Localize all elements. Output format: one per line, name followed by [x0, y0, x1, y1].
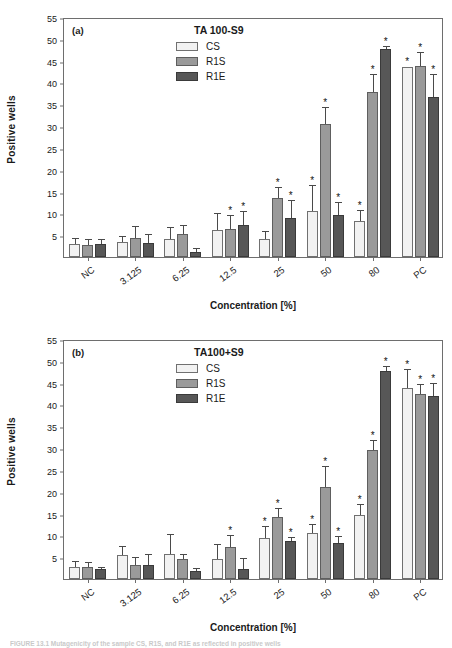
error-bar — [170, 228, 171, 239]
y-tick-label: 55 — [47, 15, 60, 24]
error-bar — [325, 108, 326, 124]
y-tick-label: 10 — [47, 533, 60, 542]
error-bar — [135, 558, 136, 565]
x-tick-mark — [88, 257, 89, 261]
bar-cs — [402, 67, 413, 257]
bar-r1s — [130, 565, 141, 579]
x-tick-mark — [88, 579, 89, 583]
x-tick-label: 80 — [338, 264, 382, 300]
bar-r1s — [415, 394, 426, 579]
y-tick: 25 — [30, 145, 64, 154]
y-tick: 40 — [30, 402, 64, 411]
error-bar — [243, 212, 244, 226]
y-tick-label: 5 — [52, 233, 60, 242]
error-bar — [101, 568, 102, 570]
error-bar-cap — [132, 226, 139, 227]
bars-b: ************* — [64, 341, 442, 579]
x-axis-title-b: Concentration [%] — [63, 622, 443, 633]
significance-marker: * — [384, 37, 388, 47]
error-bar — [433, 75, 434, 97]
error-bar — [265, 232, 266, 239]
significance-marker: * — [289, 528, 293, 538]
y-tick-label: 45 — [47, 58, 60, 67]
y-tick: 50 — [30, 36, 64, 45]
y-tick: 20 — [30, 167, 64, 176]
bar-r1s — [82, 245, 93, 257]
y-tick-mark — [60, 384, 64, 385]
x-tick-label: 3.125 — [100, 586, 144, 622]
y-tick-label: 30 — [47, 124, 60, 133]
error-bar — [312, 525, 313, 533]
error-bar — [291, 201, 292, 218]
error-bar-cap — [145, 554, 152, 555]
error-bar-cap — [72, 238, 79, 239]
y-tick: 45 — [30, 380, 64, 389]
significance-marker: * — [241, 202, 245, 212]
y-tick: 5 — [30, 233, 64, 242]
y-tick-mark — [60, 362, 64, 363]
x-tick-label: NC — [53, 586, 97, 622]
significance-marker: * — [276, 499, 280, 509]
y-tick: 30 — [30, 124, 64, 133]
y-tick-label: 50 — [47, 36, 60, 45]
significance-marker: * — [228, 526, 232, 536]
y-tick-mark — [60, 515, 64, 516]
y-tick-label: 10 — [47, 211, 60, 220]
error-bar — [196, 249, 197, 252]
x-tick-mark — [325, 257, 326, 261]
bar-r1s — [225, 229, 236, 257]
y-tick-label: 50 — [47, 358, 60, 367]
x-tick-mark — [278, 257, 279, 261]
error-bar — [148, 555, 149, 565]
error-bar — [230, 536, 231, 547]
significance-marker: * — [276, 178, 280, 188]
bar-r1e — [238, 569, 249, 579]
error-bar-cap — [193, 248, 200, 249]
error-bar — [360, 211, 361, 221]
error-bar — [122, 547, 123, 555]
y-tick-label: 45 — [47, 380, 60, 389]
y-tick: 55 — [30, 15, 64, 24]
x-tick-mark — [373, 257, 374, 261]
significance-marker: * — [358, 201, 362, 211]
error-bar-cap — [72, 561, 79, 562]
significance-marker: * — [384, 357, 388, 367]
error-bar — [122, 237, 123, 242]
error-bar — [407, 370, 408, 387]
bar-cs — [259, 538, 270, 579]
bar-cs — [69, 567, 80, 579]
y-tick-mark — [60, 84, 64, 85]
y-tick: 10 — [30, 533, 64, 542]
error-bar-cap — [180, 225, 187, 226]
bar-r1e — [95, 569, 106, 579]
error-bar — [88, 563, 89, 567]
x-tick-mark — [230, 579, 231, 583]
error-bar — [75, 562, 76, 566]
significance-marker: * — [418, 43, 422, 53]
x-tick-mark — [325, 579, 326, 583]
y-tick-label: 30 — [47, 446, 60, 455]
x-tick-label: 12.5 — [195, 264, 239, 300]
x-tick-mark — [135, 579, 136, 583]
error-bar-cap — [119, 546, 126, 547]
y-tick: 5 — [30, 555, 64, 564]
x-tick-label: 3.125 — [100, 264, 144, 300]
error-bar — [386, 47, 387, 49]
bar-cs — [354, 221, 365, 257]
error-bar — [373, 75, 374, 92]
x-tick-label: 6.25 — [148, 586, 192, 622]
bar-r1s — [367, 92, 378, 257]
error-bar — [360, 505, 361, 515]
bar-cs — [259, 239, 270, 257]
error-bar — [420, 53, 421, 66]
y-tick: 45 — [30, 58, 64, 67]
bar-cs — [212, 559, 223, 579]
error-bar — [243, 559, 244, 570]
error-bar-cap — [262, 231, 269, 232]
x-tick-label: PC — [385, 586, 429, 622]
y-tick-label: 40 — [47, 402, 60, 411]
error-bar-cap — [85, 239, 92, 240]
y-tick-mark — [60, 62, 64, 63]
x-tick-label: 50 — [290, 586, 334, 622]
bar-r1e — [285, 218, 296, 257]
